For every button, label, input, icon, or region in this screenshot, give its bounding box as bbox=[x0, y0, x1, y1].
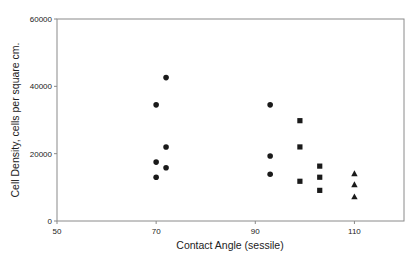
x-axis: 507090110 bbox=[53, 221, 362, 236]
circle-point bbox=[267, 171, 273, 177]
circle-point bbox=[153, 159, 159, 165]
y-tick-label: 60000 bbox=[30, 15, 53, 24]
circle-point bbox=[267, 153, 273, 159]
y-axis-title: Cell Density, cells per square cm. bbox=[9, 42, 21, 197]
y-tick-label: 40000 bbox=[30, 82, 53, 91]
square-point bbox=[317, 188, 322, 193]
y-tick-label: 20000 bbox=[30, 150, 53, 159]
circle-point bbox=[153, 174, 159, 180]
y-tick-label: 0 bbox=[48, 217, 53, 226]
triangle-point bbox=[351, 193, 357, 199]
circle-point bbox=[163, 75, 169, 81]
square-point bbox=[297, 118, 302, 123]
circle-point bbox=[267, 102, 273, 108]
data-points bbox=[153, 75, 357, 200]
square-point bbox=[317, 175, 322, 180]
circle-point bbox=[163, 144, 169, 150]
x-axis-title: Contact Angle (sessile) bbox=[176, 239, 283, 251]
scatter-chart: 0200004000060000 507090110 Contact Angle… bbox=[0, 0, 416, 267]
circle-point bbox=[163, 165, 169, 171]
x-tick-label: 70 bbox=[152, 227, 161, 236]
y-axis: 0200004000060000 bbox=[30, 15, 57, 226]
circle-point bbox=[153, 102, 159, 108]
x-tick-label: 110 bbox=[348, 227, 361, 236]
triangle-point bbox=[351, 181, 357, 187]
triangle-point bbox=[351, 170, 357, 176]
x-tick-label: 90 bbox=[251, 227, 260, 236]
square-point bbox=[297, 179, 302, 184]
square-point bbox=[317, 164, 322, 169]
plot-area bbox=[57, 19, 404, 221]
square-point bbox=[297, 144, 302, 149]
x-tick-label: 50 bbox=[53, 227, 62, 236]
